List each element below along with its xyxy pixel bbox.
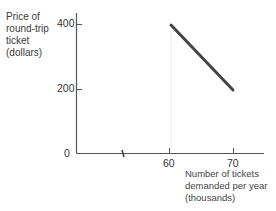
axis-break-mark	[122, 150, 124, 157]
demand-curve	[171, 25, 233, 90]
plot-area	[0, 0, 276, 211]
